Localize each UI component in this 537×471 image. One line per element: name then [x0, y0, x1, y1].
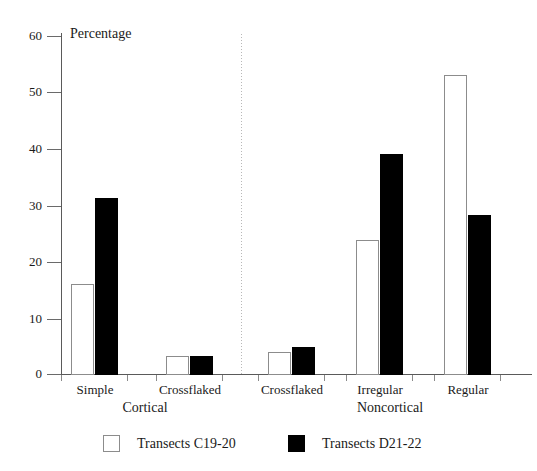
x-axis-tick-0 [61, 375, 62, 381]
bar-noncortical-crossflaked-c19-20 [268, 352, 291, 375]
y-axis-tick-30 [47, 206, 61, 207]
x-axis-tick-2 [156, 375, 157, 381]
y-axis-label-0: 0 [2, 367, 42, 380]
x-axis-tick-5 [324, 375, 325, 381]
y-axis-label-50: 50 [2, 85, 42, 98]
x-axis-tick-9 [500, 375, 501, 381]
bar-cortical-crossflaked-d21-22 [190, 356, 213, 375]
bar-noncortical-regular-d21-22 [468, 215, 491, 375]
bar-cortical-crossflaked-c19-20 [166, 356, 189, 375]
x-axis-tick-7 [412, 375, 413, 381]
legend-swatch-black-icon [288, 435, 305, 452]
x-axis-category-irregular: Irregular [339, 382, 421, 397]
y-axis-label-40: 40 [2, 142, 42, 155]
legend-item-transects-c19-20: Transects C19-20 [103, 432, 236, 454]
y-axis-tick-40 [47, 149, 61, 150]
x-axis-group-noncortical: Noncortical [330, 400, 450, 416]
y-axis-label-30: 30 [2, 199, 42, 212]
y-axis-label-60: 60 [2, 29, 42, 42]
bar-noncortical-irregular-c19-20 [356, 240, 379, 375]
x-axis-tick-6 [346, 375, 347, 381]
x-axis-category-regular: Regular [427, 382, 509, 397]
legend-item-transects-d21-22: Transects D21-22 [288, 432, 421, 454]
y-axis-line [61, 33, 62, 375]
bar-noncortical-irregular-d21-22 [380, 154, 403, 375]
x-axis-category-simple: Simple [54, 382, 136, 397]
bar-cortical-simple-c19-20 [71, 284, 94, 375]
legend-label-transects-c19-20: Transects C19-20 [137, 435, 236, 452]
x-axis-category-noncortical-crossflaked: Crossflaked [251, 382, 333, 397]
bar-noncortical-regular-c19-20 [444, 75, 467, 375]
y-axis-label-20: 20 [2, 255, 42, 268]
legend: Transects C19-20 Transects D21-22 [0, 432, 537, 458]
y-axis-tick-0 [47, 374, 61, 375]
y-axis-title: Percentage [70, 27, 131, 41]
y-axis-tick-50 [47, 92, 61, 93]
y-axis-tick-10 [47, 319, 61, 320]
y-axis-label-10: 10 [2, 312, 42, 325]
x-axis-tick-4 [258, 375, 259, 381]
group-divider-line [241, 34, 242, 374]
bar-noncortical-crossflaked-d21-22 [292, 347, 315, 375]
legend-label-transects-d21-22: Transects D21-22 [322, 435, 421, 452]
x-axis-category-cortical-crossflaked: Crossflaked [149, 382, 231, 397]
x-axis-group-cortical: Cortical [95, 400, 195, 416]
legend-swatch-white-icon [103, 435, 120, 452]
x-axis-tick-3 [222, 375, 223, 381]
bar-cortical-simple-d21-22 [95, 198, 118, 375]
x-axis-tick-8 [434, 375, 435, 381]
y-axis-tick-60 [47, 36, 61, 37]
x-axis-tick-1 [127, 375, 128, 381]
y-axis-tick-20 [47, 262, 61, 263]
bar-chart-figure: Percentage 60 50 40 30 20 10 0 [0, 0, 537, 471]
